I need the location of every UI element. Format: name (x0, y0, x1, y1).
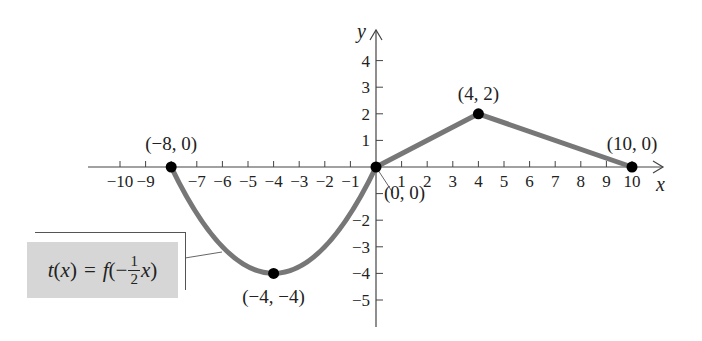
y-tick-label: −3 (352, 238, 370, 257)
fraction: 1 2 (128, 254, 140, 287)
fraction-numerator: 1 (128, 254, 140, 271)
x-tick-label: −6 (213, 172, 231, 191)
inner-variable: x (141, 258, 150, 283)
annotation-frame-right (185, 232, 186, 290)
y-tick-label: 3 (362, 78, 371, 97)
x-tick-label: 3 (449, 172, 458, 191)
key-point-label: (0, 0) (384, 182, 425, 204)
x-tick-label: −5 (239, 172, 257, 191)
equals-sign: = (84, 258, 96, 283)
function-annotation-box: t(x) = f(− 1 2 x) (27, 242, 178, 298)
key-point-label: (4, 2) (458, 83, 499, 105)
y-tick-label: −5 (352, 291, 370, 310)
y-tick-label: 2 (362, 105, 371, 124)
x-tick-label: −7 (188, 172, 207, 191)
x-tick-label: 7 (551, 172, 560, 191)
y-tick-label: −2 (352, 211, 370, 230)
y-tick-label: −4 (352, 264, 371, 283)
key-point-marker (371, 162, 382, 173)
key-point-marker (268, 268, 279, 279)
box-leader-line (185, 252, 222, 258)
x-tick-label: −1 (341, 172, 359, 191)
key-point-marker (166, 162, 177, 173)
key-points: (−8, 0)(−4, −4)(0, 0)(4, 2)(10, 0) (145, 83, 657, 309)
x-tick-label: −4 (265, 172, 284, 191)
y-tick-label: 1 (362, 131, 371, 150)
key-point-marker (627, 162, 638, 173)
function-argument: x (61, 258, 70, 283)
x-axis-label: x (655, 173, 665, 195)
key-point-marker (473, 108, 484, 119)
x-tick-label: 10 (624, 172, 641, 191)
x-tick-label: −10 (107, 172, 134, 191)
key-point-label: (10, 0) (607, 133, 658, 155)
x-tick-label: 8 (577, 172, 586, 191)
x-tick-label: −3 (290, 172, 308, 191)
x-tick-label: 4 (474, 172, 483, 191)
x-tick-label: 9 (602, 172, 611, 191)
minus-sign: − (116, 258, 128, 283)
x-tick-label: 5 (500, 172, 509, 191)
y-tick-label: 4 (362, 52, 371, 71)
key-point-label: (−8, 0) (145, 133, 197, 155)
x-tick-label: −2 (316, 172, 334, 191)
x-tick-label: 6 (525, 172, 534, 191)
x-tick-label: −9 (137, 172, 155, 191)
annotation-frame-top (35, 232, 185, 233)
key-point-label: (−4, −4) (242, 286, 305, 308)
fraction-denominator: 2 (130, 271, 138, 287)
y-axis-label: y (355, 20, 366, 43)
